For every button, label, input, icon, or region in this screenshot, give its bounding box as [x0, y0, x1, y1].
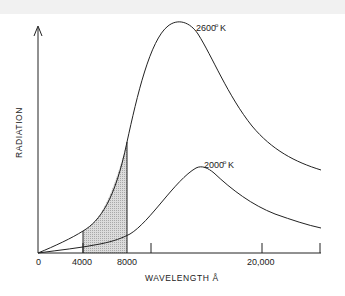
x-axis-title: WAVELENGTH Å: [145, 273, 219, 283]
label-2000k-number: 2000: [204, 160, 224, 170]
label-2600k-unit: K: [220, 23, 226, 33]
tick-label-8000: 8000: [117, 257, 137, 267]
blackbody-chart: 0 4000 8000 20,000 WAVELENGTH Å RADIATIO…: [0, 0, 345, 296]
tick-label-20000: 20,000: [247, 257, 275, 267]
label-2000k-unit: K: [228, 160, 234, 170]
shaded-visible-band: [83, 142, 127, 253]
tick-label-0: 0: [36, 257, 41, 267]
curve-2000k: [38, 167, 321, 253]
tick-label-4000: 4000: [72, 257, 92, 267]
label-2600k-degree: o: [215, 22, 219, 28]
y-axis-title: RADIATION: [14, 107, 24, 158]
label-2600k-number: 2600: [196, 23, 216, 33]
label-2000k-degree: o: [223, 159, 227, 165]
curve-2600k: [38, 22, 321, 253]
